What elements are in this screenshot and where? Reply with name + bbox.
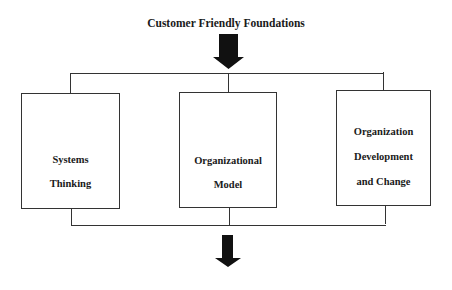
- top-connector-line: [70, 73, 384, 74]
- box-label-line: Thinking: [22, 178, 119, 190]
- bottom-connector-line: [71, 225, 386, 226]
- bottom-drop-middle: [229, 207, 230, 226]
- bottom-down-arrow-icon: [215, 235, 242, 268]
- box-label-line: and Change: [337, 176, 430, 188]
- box-label-line: Organization: [337, 126, 430, 138]
- bottom-drop-right: [385, 205, 386, 224]
- top-drop-left: [70, 73, 71, 94]
- top-drop-right: [383, 72, 384, 91]
- box-label-line: Model: [180, 179, 276, 191]
- bottom-drop-left: [71, 208, 72, 226]
- box-systems-thinking: Systems Thinking: [21, 93, 120, 209]
- box-label-line: Organizational: [180, 155, 276, 167]
- top-down-arrow-icon: [212, 34, 244, 70]
- box-label-line: Development: [337, 151, 430, 163]
- top-drop-middle: [228, 73, 229, 93]
- box-organizational-model: Organizational Model: [179, 92, 277, 208]
- diagram-title: Customer Friendly Foundations: [0, 17, 452, 29]
- box-organization-development: Organization Development and Change: [336, 90, 431, 206]
- box-label-line: Systems: [22, 154, 119, 166]
